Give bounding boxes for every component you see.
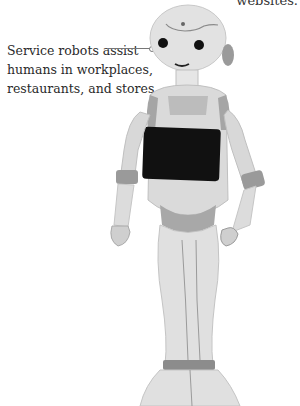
robot-illustration [0, 0, 300, 406]
robot-left-arm [111, 112, 150, 246]
robot-torso [142, 85, 229, 233]
chest-tablet [142, 127, 221, 182]
robot-lower-body [140, 225, 240, 406]
robot-head [150, 5, 234, 71]
